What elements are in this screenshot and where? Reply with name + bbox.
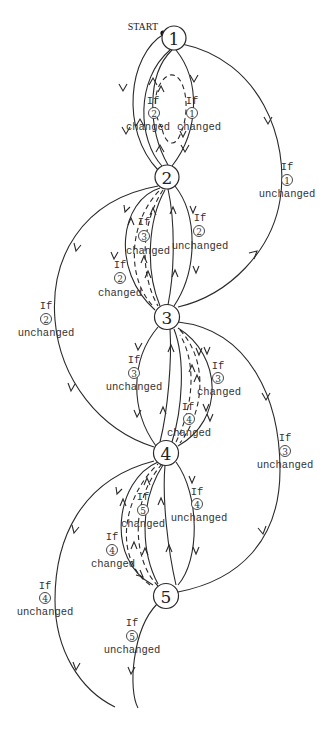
arrow-icon (131, 542, 137, 549)
edge-label-cond: unchanged (17, 606, 74, 618)
edge-4-to-3-inner (172, 329, 181, 442)
edge-label-num: 2 (117, 274, 123, 284)
edge-label-num: 3 (282, 447, 288, 457)
arrow-icon (194, 375, 200, 382)
edge-3-to-5-outer (178, 322, 280, 592)
node-3-label: 3 (162, 308, 173, 328)
edge-label-num: 3 (131, 369, 137, 379)
edge-label-num: 4 (186, 415, 192, 425)
arrow-icon (204, 347, 210, 354)
node-2: 2 (155, 165, 179, 189)
edge-label-if: If (279, 432, 292, 444)
edge-label: If 3 unchanged (257, 432, 314, 471)
arrow-icon (144, 478, 150, 485)
edge-label: If 2 unchanged (172, 212, 229, 252)
edge-label-if: If (191, 486, 204, 498)
edge-label-cond: changed (126, 245, 170, 257)
edge-label-num: 4 (109, 546, 115, 556)
edge-label-num: 1 (284, 176, 290, 186)
edge-dashed-4-to-3 (176, 335, 191, 442)
edge-label-if: If (212, 360, 225, 372)
node-2-label: 2 (162, 168, 173, 188)
edge-label-cond: unchanged (106, 381, 163, 393)
edge-label-num: 5 (129, 632, 135, 642)
edge-label-if: If (39, 580, 52, 592)
edge-label-cond: unchanged (257, 459, 314, 471)
edge-label: If 3 unchanged (106, 354, 163, 393)
arrow-icon (207, 414, 213, 421)
arrow-icon (111, 252, 118, 259)
edge-label: If 4 unchanged (17, 580, 74, 618)
edge-label-if: If (137, 491, 150, 503)
edge-label: If 1 unchanged (259, 161, 316, 200)
edge-label-cond: changed (126, 121, 170, 133)
edge-label: If 2 unchanged (18, 300, 75, 339)
node-5-label: 5 (161, 587, 172, 607)
edge-label: If 3 changed (197, 360, 241, 398)
edge-label-num: 2 (151, 109, 157, 119)
node-1: 1 (162, 26, 186, 50)
arrow-icon (141, 256, 147, 263)
arrow-icon (68, 383, 75, 391)
arrow-icon (189, 476, 195, 483)
arrow-icon (158, 498, 164, 505)
edge-label: If 4 changed (91, 531, 135, 570)
edge-label-if: If (128, 354, 141, 366)
start-marker: START (128, 21, 166, 36)
edge-label-num: 4 (194, 500, 200, 510)
edge-label-if: If (194, 212, 207, 224)
edge-label-if: If (106, 531, 119, 543)
edge-label-if: If (186, 95, 199, 107)
arrow-icon (150, 208, 156, 215)
edge-label-if: If (126, 617, 139, 629)
edge-label-cond: unchanged (171, 512, 228, 524)
edge-label-cond: unchanged (172, 240, 229, 252)
edge-label-if: If (138, 216, 151, 228)
arrow-icon (193, 547, 199, 554)
node-1-label: 1 (169, 29, 180, 49)
edge-label-num: 2 (43, 315, 49, 325)
edge-label-cond: changed (121, 518, 165, 530)
edges-1-2 (119, 34, 282, 307)
edge-label-num: 3 (141, 232, 147, 242)
arrow-icon (74, 243, 81, 251)
edge-label-cond: unchanged (259, 188, 316, 200)
arrow-icon (72, 525, 79, 533)
edge-label-if: If (114, 259, 127, 271)
state-transition-diagram: START 1 2 3 4 5 If 2 changed If 1 change… (0, 0, 335, 730)
edges-4-5 (55, 461, 199, 707)
arrow-icon (128, 667, 135, 674)
arrow-icon (193, 266, 199, 273)
arrow-icon (124, 205, 130, 212)
node-5: 5 (154, 584, 179, 609)
edge-label-cond: unchanged (104, 644, 161, 656)
arrow-icon (249, 251, 257, 259)
edge-label-num: 4 (42, 594, 48, 604)
edge-label-num: 1 (189, 109, 195, 119)
arrow-icon (145, 271, 151, 278)
edge-label-num: 5 (140, 506, 146, 516)
edge-label: If 5 unchanged (104, 617, 161, 656)
edge-label: If 4 unchanged (171, 486, 228, 524)
edge-label: If 1 changed (177, 95, 221, 133)
edge-label-num: 2 (196, 227, 202, 237)
start-label: START (128, 21, 158, 32)
arrow-icon (116, 487, 122, 494)
edge-label-cond: changed (167, 427, 211, 439)
edge-label-cond: changed (177, 121, 221, 133)
edge-label: If 5 changed (121, 491, 165, 530)
edge-label-cond: changed (98, 287, 142, 299)
edge-label-cond: changed (91, 558, 135, 570)
edge-5-to-4-center (164, 465, 176, 585)
edge-label-if: If (40, 300, 53, 312)
arrow-icon (160, 407, 166, 414)
node-4-label: 4 (161, 444, 172, 464)
arrow-icon (258, 526, 266, 534)
edge-label-cond: unchanged (18, 327, 75, 339)
edge-label-cond: changed (197, 386, 241, 398)
edge-label-num: 3 (215, 374, 221, 384)
edge-label-if: If (281, 161, 294, 173)
node-3: 3 (155, 305, 180, 330)
node-4: 4 (154, 441, 179, 466)
arrow-icon (135, 343, 142, 350)
